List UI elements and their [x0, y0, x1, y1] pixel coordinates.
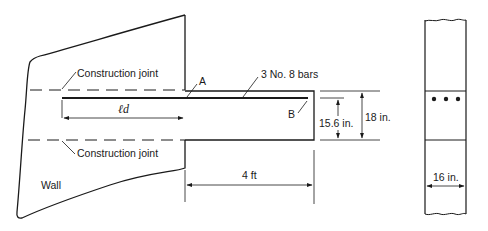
length-label: 4 ft [242, 169, 257, 181]
bars-label: 3 No. 8 bars [261, 68, 318, 80]
total-depth-label: 18 in. [365, 111, 391, 123]
effective-depth-label: 15.6 in. [319, 117, 353, 129]
wall-label: Wall [41, 179, 61, 191]
construction-joint-bottom-label: Construction joint [77, 147, 158, 159]
rebar-dot [432, 97, 436, 101]
rebar-dot [444, 97, 448, 101]
rebar-dot [456, 97, 460, 101]
point-a-label: A [199, 75, 206, 87]
cross-section [425, 19, 466, 214]
beam-diagram: Construction joint Construction joint A … [0, 0, 488, 231]
construction-joint-top-label: Construction joint [77, 67, 158, 79]
point-b-label: B [288, 108, 295, 120]
width-label: 16 in. [433, 171, 459, 183]
development-length-label: ℓd [118, 102, 130, 116]
